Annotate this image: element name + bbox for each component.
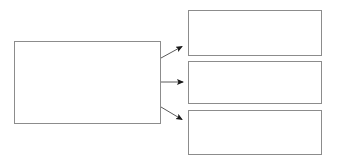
source-box[interactable] xyxy=(14,41,161,124)
diagram-canvas xyxy=(0,0,339,165)
target-box-1[interactable] xyxy=(188,10,322,56)
target-box-3[interactable] xyxy=(188,110,322,155)
connector-source-to-target-1 xyxy=(161,47,182,59)
target-box-2[interactable] xyxy=(188,61,322,104)
connector-source-to-target-3 xyxy=(161,107,182,120)
